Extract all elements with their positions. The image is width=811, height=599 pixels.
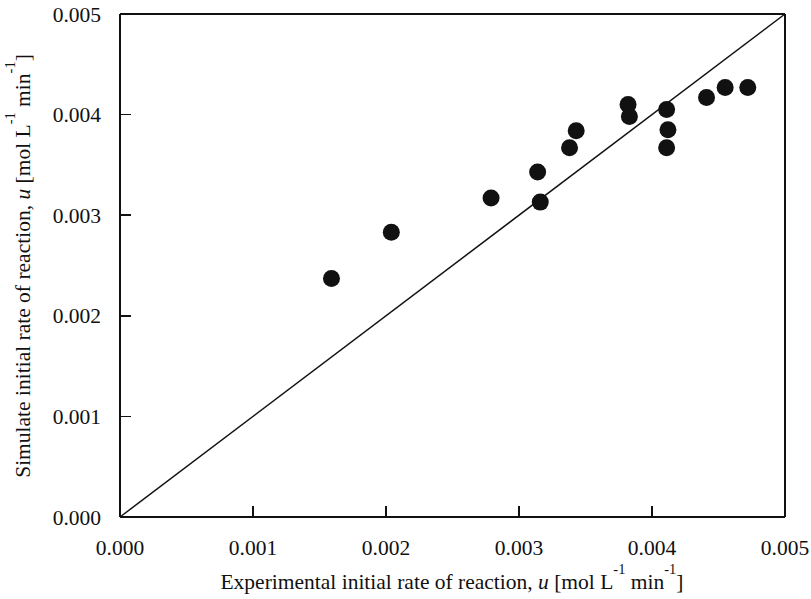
chart-canvas: 0.0000.0010.0020.0030.0040.005 0.0000.00… — [0, 0, 811, 599]
data-point-marker — [739, 79, 756, 96]
y-tick-label: 0.002 — [53, 304, 101, 328]
y-tick-label: 0.005 — [53, 3, 101, 27]
scatter-plot-figure: 0.0000.0010.0020.0030.0040.005 0.0000.00… — [0, 0, 811, 599]
data-point-marker — [658, 101, 675, 118]
data-point-marker — [658, 139, 675, 156]
y-tick-label: 0.000 — [53, 506, 101, 530]
y-axis-title: Simulate initial rate of reaction, u [mo… — [2, 54, 35, 478]
data-point-marker — [323, 270, 340, 287]
data-point-marker — [483, 190, 500, 207]
y-axis-title-label: Simulate initial rate of reaction, u [mo… — [2, 54, 35, 478]
data-point-marker — [561, 139, 578, 156]
x-tick-label: 0.002 — [362, 536, 410, 560]
y-tick-label: 0.003 — [53, 204, 101, 228]
data-point-marker — [659, 121, 676, 138]
x-tick-label: 0.000 — [96, 536, 144, 560]
data-point-marker — [568, 122, 585, 139]
y-axis-tick-labels: 0.0000.0010.0020.0030.0040.005 — [53, 3, 102, 530]
data-point-marker — [532, 194, 549, 211]
parity-line — [120, 14, 785, 517]
y-tick-label: 0.004 — [53, 103, 102, 127]
x-axis-tick-labels: 0.0000.0010.0020.0030.0040.005 — [96, 536, 809, 560]
x-axis-title: Experimental initial rate of reaction, u… — [220, 561, 683, 594]
parity-reference-line — [120, 14, 785, 517]
y-tick-label: 0.001 — [53, 405, 101, 429]
x-tick-label: 0.005 — [761, 536, 809, 560]
scatter-data-points — [323, 79, 756, 287]
x-tick-label: 0.003 — [495, 536, 543, 560]
x-axis-ticks — [120, 506, 785, 517]
data-point-marker — [383, 224, 400, 241]
data-point-marker — [717, 79, 734, 96]
x-tick-label: 0.001 — [229, 536, 277, 560]
y-axis-ticks — [120, 14, 131, 517]
data-point-marker — [621, 108, 638, 125]
data-point-marker — [529, 163, 546, 180]
x-axis-title-label: Experimental initial rate of reaction, u… — [220, 561, 683, 594]
data-point-marker — [698, 89, 715, 106]
x-tick-label: 0.004 — [628, 536, 677, 560]
